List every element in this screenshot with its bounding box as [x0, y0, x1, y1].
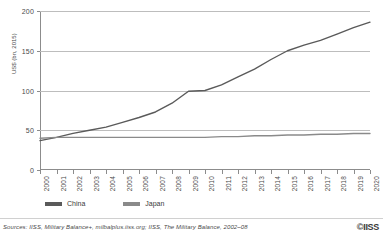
y-tick-label: 100 [22, 87, 34, 94]
legend-swatch-icon [123, 202, 140, 206]
y-tick-label: 200 [22, 8, 34, 15]
y-tick-label: 0 [30, 167, 34, 174]
x-tick-mark [106, 170, 107, 174]
chart-legend: ChinaJapan [45, 200, 164, 207]
x-tick-label: 2002 [76, 176, 83, 191]
x-tick-mark [370, 170, 371, 174]
x-tick-label: 2019 [357, 176, 364, 191]
x-tick-mark [238, 170, 239, 174]
y-tick-label: 50 [26, 127, 34, 134]
series-line-japan [40, 133, 370, 138]
x-tick-mark [255, 170, 256, 174]
x-tick-label: 2003 [93, 176, 100, 191]
x-tick-mark [189, 170, 190, 174]
x-tick-mark [222, 170, 223, 174]
x-tick-label: 2015 [291, 176, 298, 191]
x-tick-label: 2009 [192, 176, 199, 191]
x-tick-label: 2007 [159, 176, 166, 191]
plot-area: 050100150200 200020012002200320042005200… [40, 11, 370, 170]
y-tick-label: 150 [22, 47, 34, 54]
x-tick-label: 2016 [307, 176, 314, 191]
x-tick-label: 2014 [274, 176, 281, 191]
x-tick-label: 2018 [340, 176, 347, 191]
x-tick-label: 2010 [208, 176, 215, 191]
x-tick-mark [354, 170, 355, 174]
chart-figure: US$ (bn, 2015) 050100150200 200020012002… [0, 0, 383, 238]
x-tick-label: 2008 [175, 176, 182, 191]
y-axis-title-text: US$ (bn, 2015) [11, 33, 17, 74]
x-tick-label: 2013 [258, 176, 265, 191]
x-tick-mark [156, 170, 157, 174]
series-lines [40, 11, 370, 170]
x-tick-mark [57, 170, 58, 174]
x-tick-label: 2005 [126, 176, 133, 191]
sources-note: Sources: IISS, Military Balance+, milbal… [3, 224, 248, 230]
x-tick-label: 2012 [241, 176, 248, 191]
x-tick-label: 2017 [324, 176, 331, 191]
x-tick-mark [304, 170, 305, 174]
y-axis-title: US$ (bn, 2015) [3, 12, 14, 132]
x-tick-mark [139, 170, 140, 174]
x-tick-mark [337, 170, 338, 174]
footer-divider [0, 218, 383, 219]
x-tick-mark [73, 170, 74, 174]
legend-label: Japan [145, 200, 164, 207]
x-tick-mark [40, 170, 41, 174]
x-tick-mark [90, 170, 91, 174]
legend-swatch-icon [45, 202, 62, 206]
x-tick-label: 2020 [373, 176, 380, 191]
x-tick-mark [288, 170, 289, 174]
legend-item-japan[interactable]: Japan [123, 200, 164, 207]
x-tick-label: 2000 [43, 176, 50, 191]
legend-item-china[interactable]: China [45, 200, 85, 207]
x-tick-label: 2011 [225, 176, 232, 191]
x-tick-mark [321, 170, 322, 174]
x-tick-label: 2006 [142, 176, 149, 191]
x-tick-mark [123, 170, 124, 174]
x-tick-mark [205, 170, 206, 174]
iiss-copyright-logo: ©IISS [357, 222, 379, 232]
x-tick-mark [271, 170, 272, 174]
x-tick-mark [172, 170, 173, 174]
x-tick-label: 2004 [109, 176, 116, 191]
legend-label: China [67, 200, 85, 207]
x-tick-label: 2001 [60, 176, 67, 191]
series-line-china [40, 22, 370, 140]
